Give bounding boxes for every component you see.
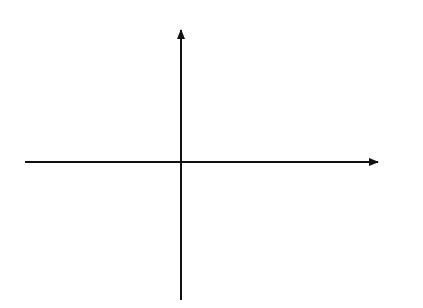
- hyperbola-diagram: [0, 0, 423, 308]
